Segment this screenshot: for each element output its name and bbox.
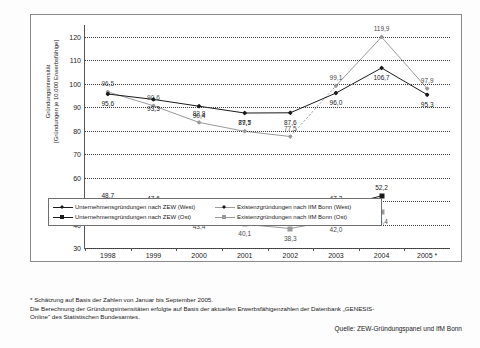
x-axis-tick-label: 2002 [283,252,299,259]
x-axis-tick-label: 2004 [374,252,390,259]
legend-line-ifm-west [215,207,235,208]
data-point-label: 42,0 [330,225,343,232]
gridline [85,154,450,155]
data-point-label: 99,1 [330,73,343,80]
x-axis-tick-mark [222,248,223,251]
x-axis-tick-label: 1999 [146,252,162,259]
x-axis-tick-mark [404,248,405,251]
y-axis-tick-label: 60 [73,174,81,181]
data-point-label: 40,1 [238,230,251,237]
legend-item-ifm-ost[interactable]: Existenzgründungen nach IfM Bonn (Ost) [215,214,377,220]
x-axis-tick-mark [359,248,360,251]
gridline [85,37,450,38]
gridline [85,107,450,108]
y-axis-tick-label: 120 [69,33,81,40]
series-segment [153,99,199,106]
y-axis-tick-label: 70 [73,151,81,158]
y-axis-tick-label: 80 [73,127,81,134]
legend-item-zew-ost[interactable]: Unternehmensgründungen nach ZEW (Ost) [53,214,215,220]
footnote-line-1: * Schätzung auf Basis der Zahlen von Jan… [30,296,462,305]
data-point-label: 87,6 [284,118,297,125]
chart-screenshot: Gründungsintensität [Gründungen je 10.00… [0,0,480,348]
series-segment [245,131,291,136]
y-axis-tick-label: 100 [69,80,81,87]
x-axis-tick-label: 2003 [328,252,344,259]
data-point-label: 52,2 [375,183,388,190]
x-axis-tick-label: 2005 * [417,252,437,259]
gridline [85,60,450,61]
legend-row-top: Unternehmensgründungen nach ZEW (West) E… [53,202,377,212]
data-point-label: 95,6 [101,100,114,107]
gridline [85,131,450,132]
y-axis-tick-label: 90 [73,104,81,111]
legend-line-zew-west [53,207,73,208]
y-axis-label-line2: [Gründungen je 10.000 Erwerbsfähige] [53,40,61,143]
data-point-label: 87,5 [238,119,251,126]
x-axis-tick-label: 2000 [191,252,207,259]
series-segment [290,86,336,137]
legend-line-ifm-ost [215,217,235,218]
data-point-label: 93,3 [147,105,160,112]
x-axis-tick-mark [313,248,314,251]
legend-label-ifm-ost: Existenzgründungen nach IfM Bonn (Ost) [237,214,347,220]
legend-item-zew-west[interactable]: Unternehmensgründungen nach ZEW (West) [53,204,215,210]
data-point-label: 96,0 [330,99,343,106]
square-icon [222,215,226,219]
data-point-label: 95,3 [421,100,434,107]
legend-label-zew-ost: Unternehmensgründungen nach ZEW (Ost) [75,214,191,220]
x-axis-tick-label: 2001 [237,252,253,259]
x-axis-tick-label: 1998 [100,252,116,259]
data-point-label: 97,9 [421,76,434,83]
gridline [85,84,450,85]
chart-legend: Unternehmensgründungen nach ZEW (West) E… [48,198,382,226]
data-point-marker [288,226,293,231]
chart-source: Quelle: ZEW-Gründungspanel und IfM Bonn [30,325,462,332]
y-axis-tick-label: 30 [73,245,81,252]
legend-item-ifm-west[interactable]: Existenzgründungen nach IfM Bonn (West) [215,204,377,210]
data-point-label: 106,7 [373,73,389,80]
footnote-line-3: Online" des Statistischen Bundesamtes. [30,313,462,322]
x-axis-tick-mark [131,248,132,251]
footnote-line-2: Die Berechnung der Gründungsintensitäten… [30,305,462,314]
legend-row-bottom: Unternehmensgründungen nach ZEW (Ost) Ex… [53,212,377,222]
chart-footnotes: * Schätzung auf Basis der Zahlen von Jan… [30,296,462,332]
series-segment [336,68,382,93]
square-icon [60,215,64,219]
x-axis-tick-mark [268,248,269,251]
diamond-icon [222,205,226,209]
legend-label-zew-west: Unternehmensgründungen nach ZEW (West) [75,204,195,210]
y-axis-label: Gründungsintensität [Gründungen je 10.00… [45,40,60,143]
legend-label-ifm-west: Existenzgründungen nach IfM Bonn (West) [237,204,351,210]
legend-line-zew-ost [53,217,73,218]
x-axis-tick-mark [85,248,86,251]
y-axis-label-line1: Gründungsintensität [45,40,53,143]
gridline [85,178,450,179]
y-axis-tick-label: 110 [70,57,81,64]
data-point-label: 38,3 [284,234,297,241]
data-point-label: 90,4 [193,112,206,119]
x-axis-tick-mark [176,248,177,251]
data-point-label: 96,5 [101,79,114,86]
diamond-icon [60,205,64,209]
data-point-label: 119,9 [374,24,390,31]
